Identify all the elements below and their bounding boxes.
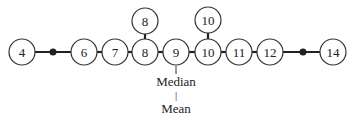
svg-text:10: 10 (202, 13, 215, 28)
node-9: 9 (163, 39, 189, 65)
dot-left (50, 49, 57, 56)
node-4: 4 (9, 39, 35, 65)
dot-right (300, 49, 307, 56)
svg-text:14: 14 (327, 45, 341, 60)
svg-text:9: 9 (173, 45, 180, 60)
mean-label: Mean (146, 101, 206, 117)
svg-text:12: 12 (264, 45, 277, 60)
node-6: 6 (71, 39, 97, 65)
node-12: 12 (257, 39, 283, 65)
svg-text:11: 11 (233, 45, 246, 60)
median-mean-separator: | (146, 89, 206, 101)
median-label: Median (146, 74, 206, 90)
svg-text:4: 4 (19, 45, 26, 60)
node-8: 8 (132, 39, 158, 65)
node-10: 10 (195, 39, 221, 65)
svg-text:8: 8 (142, 14, 149, 29)
node-10-top: 10 (195, 7, 221, 33)
node-14: 14 (320, 39, 346, 65)
svg-text:6: 6 (81, 45, 88, 60)
node-8-top: 8 (132, 8, 158, 34)
node-7: 7 (102, 39, 128, 65)
svg-text:8: 8 (142, 45, 149, 60)
svg-text:7: 7 (112, 45, 119, 60)
node-11: 11 (226, 39, 252, 65)
svg-text:10: 10 (202, 45, 215, 60)
